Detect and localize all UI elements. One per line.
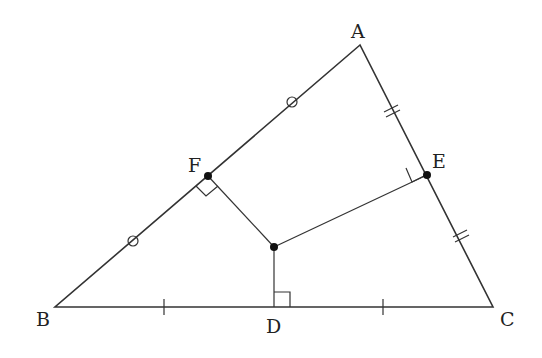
label-c: C <box>500 308 515 330</box>
segment-eo <box>274 175 427 247</box>
point-f <box>204 172 212 180</box>
right-angle-mark-d <box>274 292 290 307</box>
right-angle-mark-e <box>406 168 424 182</box>
right-angle-mark-f <box>196 186 218 196</box>
label-b: B <box>36 308 50 330</box>
label-e: E <box>432 150 446 172</box>
label-f: F <box>188 154 201 176</box>
point-o <box>270 243 278 251</box>
triangle-diagram: A B C D E F <box>0 0 542 358</box>
label-a: A <box>350 20 365 42</box>
label-d: D <box>266 315 281 337</box>
point-e <box>423 171 431 179</box>
equal-mark-circle-af <box>287 97 297 107</box>
